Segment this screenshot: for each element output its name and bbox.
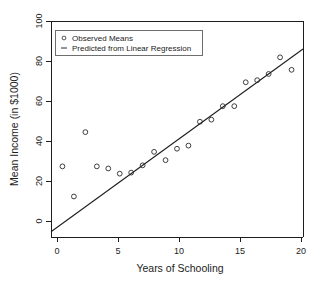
data-point <box>163 158 168 163</box>
x-tick-label-5: 5 <box>115 246 120 256</box>
chart-figure: 0 20 40 60 80 100 0 5 10 15 20 Years of … <box>0 0 328 289</box>
legend-label-observed: Observed Means <box>72 34 133 43</box>
y-tick-label-40: 40 <box>34 136 44 146</box>
regression-line <box>51 49 303 232</box>
y-tick-label-60: 60 <box>34 96 44 106</box>
x-tick-label-15: 15 <box>235 246 245 256</box>
data-point <box>60 164 65 169</box>
chart-legend: Observed Means Predicted from Linear Reg… <box>55 30 202 55</box>
data-point <box>83 130 88 135</box>
data-point <box>243 80 248 85</box>
data-point <box>152 149 157 154</box>
x-axis-ticks: 0 5 10 15 20 <box>54 237 306 256</box>
y-tick-label-100: 100 <box>34 13 44 28</box>
data-point <box>278 55 283 60</box>
y-tick-label-80: 80 <box>34 56 44 66</box>
data-point <box>72 194 77 199</box>
x-tick-label-10: 10 <box>174 246 184 256</box>
legend-label-predicted: Predicted from Linear Regression <box>72 44 191 53</box>
y-axis-ticks: 0 20 40 60 80 100 <box>34 13 51 223</box>
x-tick-label-20: 20 <box>296 246 306 256</box>
data-point <box>289 67 294 72</box>
observed-means-points <box>60 55 294 199</box>
data-point <box>186 143 191 148</box>
data-point <box>209 117 214 122</box>
data-point <box>106 166 111 171</box>
y-axis-title: Mean Income (in $1000) <box>8 72 20 186</box>
x-tick-label-0: 0 <box>54 246 59 256</box>
data-point <box>175 146 180 151</box>
scatter-plot-svg: 0 20 40 60 80 100 0 5 10 15 20 Years of … <box>0 0 328 289</box>
data-point <box>232 104 237 109</box>
data-point <box>117 171 122 176</box>
y-tick-label-0: 0 <box>34 218 44 223</box>
y-tick-label-20: 20 <box>34 176 44 186</box>
data-point <box>94 164 99 169</box>
x-axis-title: Years of Schooling <box>136 262 223 274</box>
